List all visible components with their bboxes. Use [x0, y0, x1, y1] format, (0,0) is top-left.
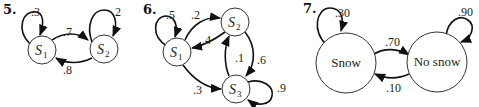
svg-text:No snow: No snow — [414, 54, 461, 69]
prob-label: .8 — [63, 63, 72, 77]
prob-label: .3 — [193, 83, 202, 97]
transition-nosnow-snow — [375, 74, 409, 78]
prob-label: .5 — [166, 8, 175, 22]
transition-snow-nosnow — [374, 50, 409, 55]
transition-s3-s2 — [225, 36, 229, 76]
transition-s2-s3 — [245, 32, 253, 76]
prob-label: .6 — [257, 53, 266, 67]
svg-text:S: S — [35, 43, 42, 58]
prob-label: .4 — [202, 33, 211, 47]
state-snow: Snow — [316, 33, 376, 93]
markov-diagrams: 5. .3 .7 .8 .2 S 1 S 2 6. .5 .2 — [0, 0, 479, 107]
svg-text:S: S — [229, 82, 236, 97]
prob-label: .3 — [31, 5, 40, 19]
prob-label: .30 — [335, 6, 350, 20]
svg-text:3: 3 — [237, 89, 242, 99]
diagram-number: 6. — [143, 2, 157, 17]
diagram-5: 5. .3 .7 .8 .2 S 1 S 2 — [3, 2, 121, 77]
prob-label: .1 — [235, 51, 244, 65]
transition-s3-s3 — [248, 81, 272, 104]
svg-text:1: 1 — [178, 52, 183, 62]
prob-label: .7 — [63, 25, 72, 39]
transition-s2-s1 — [56, 58, 92, 63]
svg-text:Snow: Snow — [331, 55, 361, 70]
state-s2: S 2 — [221, 8, 249, 36]
prob-label: .9 — [277, 81, 286, 95]
svg-text:S: S — [170, 45, 177, 60]
prob-label: .70 — [385, 35, 400, 49]
state-s1: S 1 — [163, 38, 191, 66]
prob-label: .90 — [458, 5, 473, 19]
svg-text:S: S — [228, 15, 235, 30]
diagram-number: 5. — [3, 2, 17, 17]
svg-text:2: 2 — [105, 49, 110, 59]
state-s2: S 2 — [90, 35, 118, 63]
diagram-6: 6. .5 .2 .4 .1 .6 .3 .9 S 1 S 2 — [143, 2, 286, 104]
state-s3: S 3 — [222, 75, 250, 103]
state-s1: S 1 — [28, 36, 56, 64]
svg-text:1: 1 — [43, 50, 48, 60]
transition-s1-s3 — [183, 65, 221, 89]
prob-label: .2 — [112, 5, 121, 19]
prob-label: .2 — [191, 8, 200, 22]
diagram-number: 7. — [303, 1, 317, 16]
diagram-7: 7. .30 .70 .10 .90 Snow No snow — [303, 1, 473, 95]
state-no-snow: No snow — [407, 32, 467, 92]
svg-text:2: 2 — [236, 22, 241, 32]
svg-text:S: S — [97, 42, 104, 57]
prob-label: .10 — [386, 81, 401, 95]
